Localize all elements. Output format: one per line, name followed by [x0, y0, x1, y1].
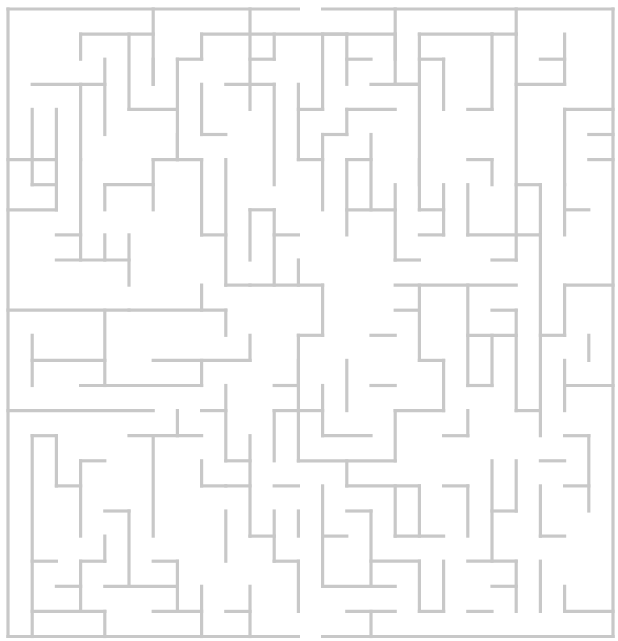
- maze-board[interactable]: Maze: [0, 0, 618, 641]
- maze-walls: [0, 0, 618, 641]
